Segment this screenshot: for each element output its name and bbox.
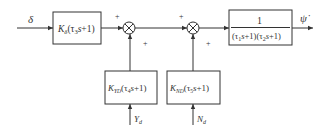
yd-disturbance-label: Yd bbox=[134, 114, 143, 125]
nd-block-label: KND(τ5s+1) bbox=[169, 83, 209, 94]
output-label: ψ̇ bbox=[300, 12, 311, 24]
yd-block-label: KYD(τ4s+1) bbox=[107, 83, 147, 94]
plant-numerator: 1 bbox=[257, 15, 262, 26]
input-label: δ bbox=[28, 13, 34, 25]
summing-junction-1 bbox=[123, 22, 135, 34]
sum1-plus-top: + bbox=[115, 12, 120, 21]
sum1-plus-bottom: + bbox=[143, 39, 148, 48]
sum2-plus-top: + bbox=[179, 12, 184, 21]
sum2-plus-bottom: + bbox=[206, 39, 211, 48]
block-diagram: δ Kδ(τ3s+1) + + + + 1 (τ1s+1)(τ2s+1) ψ̇ … bbox=[0, 0, 325, 133]
plant-denominator: (τ1s+1)(τ2s+1) bbox=[232, 31, 281, 42]
nd-disturbance-label: Nd bbox=[196, 114, 207, 125]
rudder-block-label: Kδ(τ3s+1) bbox=[57, 24, 95, 35]
summing-junction-2 bbox=[187, 22, 199, 34]
